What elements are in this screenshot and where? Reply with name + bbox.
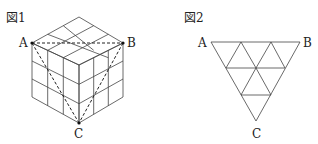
figure2-label-b: B <box>303 36 312 50</box>
figure2: 図2 A B C <box>184 11 312 141</box>
figure1-label-c: C <box>74 127 83 141</box>
cube-top-face <box>32 17 123 65</box>
figure1-label-a: A <box>18 36 28 50</box>
point-c-dot <box>77 121 80 124</box>
figure2-label-a: A <box>197 36 207 50</box>
figure2-caption: 図2 <box>184 11 204 25</box>
figure1-label-b: B <box>127 36 136 50</box>
point-a-dot <box>30 41 33 44</box>
point-b-dot <box>121 41 124 44</box>
dashed-triangle-abc <box>32 43 123 123</box>
subdivided-triangle <box>211 42 300 121</box>
figure1: 図1 <box>6 11 136 141</box>
figure-canvas: 図1 <box>0 0 318 144</box>
figure1-caption: 図1 <box>6 11 26 25</box>
figure2-label-c: C <box>252 127 261 141</box>
